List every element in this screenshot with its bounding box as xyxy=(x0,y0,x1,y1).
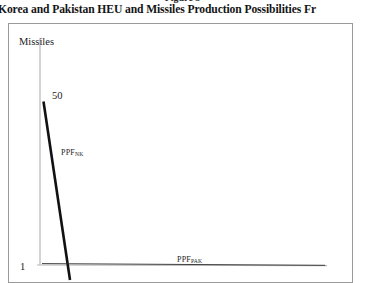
figure-title: Korea and Pakistan HEU and Missiles Prod… xyxy=(0,2,365,18)
series-label-ppf-nk-subscript: NK xyxy=(75,151,83,157)
y-tick-label-50: 50 xyxy=(52,90,63,101)
series-label-ppf-pak-subscript: PAK xyxy=(191,258,202,264)
y-axis-title: Missiles xyxy=(19,36,54,47)
series-label-ppf-pak-text: PPF xyxy=(177,255,191,264)
chart-frame: Missiles 50 1 PPFNK PPFPAK xyxy=(8,23,353,283)
y-tick-label-1: 1 xyxy=(20,261,25,272)
ppf-nk-line xyxy=(44,102,71,281)
series-label-ppf-pak: PPFPAK xyxy=(177,255,202,264)
series-label-ppf-nk: PPFNK xyxy=(61,148,83,157)
series-label-ppf-nk-text: PPF xyxy=(61,148,75,157)
